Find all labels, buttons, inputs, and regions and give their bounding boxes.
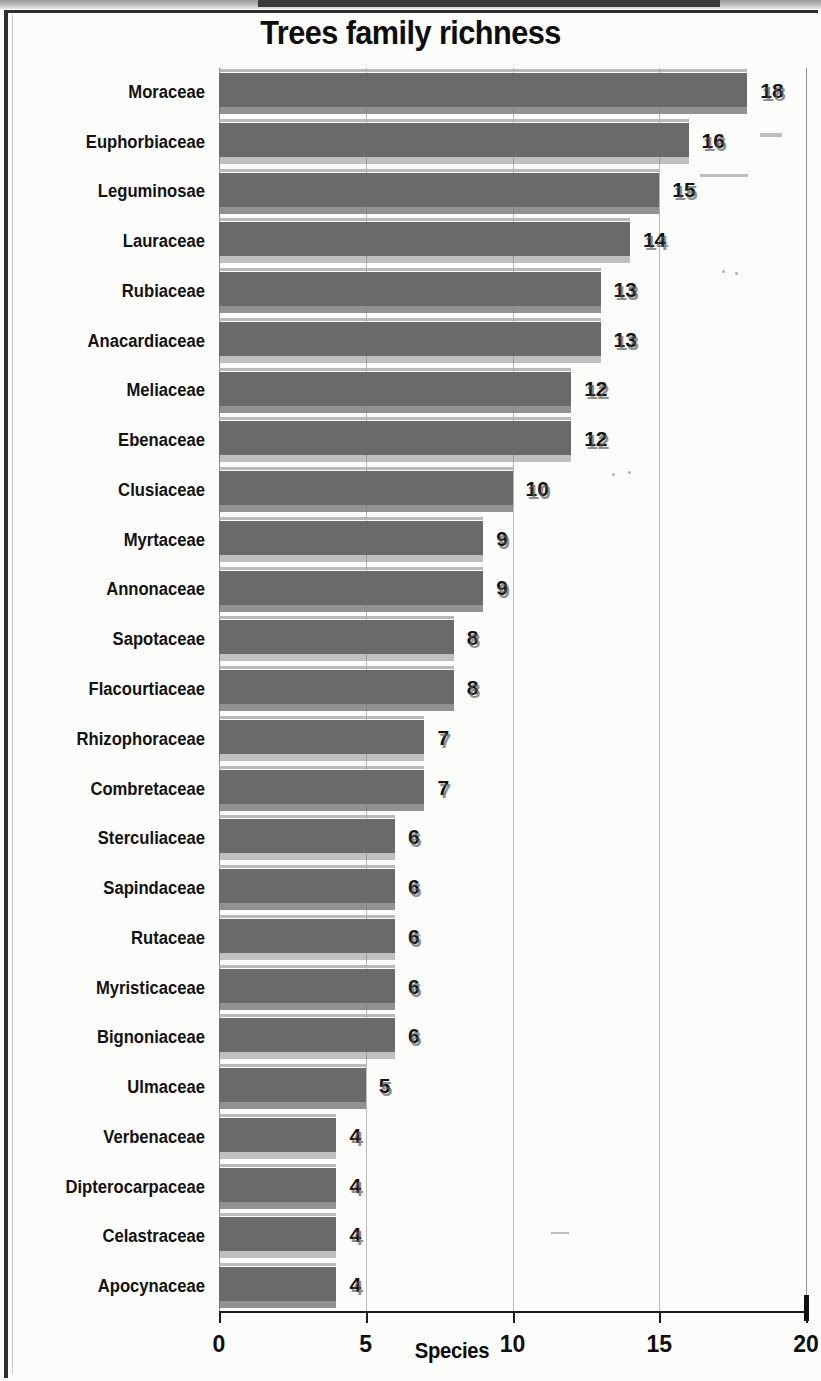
- scan-smudge: [700, 174, 748, 177]
- bar-row: [219, 964, 806, 1014]
- scan-speck: [722, 270, 725, 273]
- bar[interactable]: [219, 421, 571, 455]
- bar-value-label-ghost: 8: [469, 629, 481, 653]
- bar-value-label-ghost: 18: [762, 82, 785, 106]
- x-axis-tick-label: 10: [500, 1331, 526, 1358]
- category-label: Moraceae: [10, 82, 205, 103]
- category-label: Rhizophoraceae: [10, 729, 205, 750]
- bar-row: [219, 814, 806, 864]
- bar-scan-ghost: [219, 1014, 395, 1017]
- bar-scan-ghost: [219, 1263, 336, 1266]
- bar-scan-ghost: [219, 256, 630, 263]
- category-label: Sapindaceae: [10, 878, 205, 899]
- bar-row: [219, 1163, 806, 1213]
- category-label: Sterculiaceae: [10, 828, 205, 849]
- category-label: Myristicaceae: [10, 978, 205, 999]
- bar[interactable]: [219, 620, 454, 654]
- bar-scan-ghost: [219, 666, 454, 669]
- bar-value-label-ghost: 10: [528, 480, 551, 504]
- bar-scan-ghost: [219, 406, 571, 413]
- bar-scan-ghost: [219, 1003, 395, 1010]
- bar-scan-ghost: [219, 69, 747, 72]
- bar-scan-ghost: [219, 965, 395, 968]
- bar-scan-ghost: [219, 815, 395, 818]
- bar[interactable]: [219, 869, 395, 903]
- bar[interactable]: [219, 73, 747, 107]
- bar-scan-ghost: [219, 654, 454, 661]
- bar-scan-ghost: [219, 915, 395, 918]
- x-axis-title: Species: [415, 1338, 490, 1364]
- x-axis-tick-label: 5: [359, 1331, 372, 1358]
- bar-value-label-ghost: 6: [410, 878, 422, 902]
- bar[interactable]: [219, 372, 571, 406]
- bar-row: [219, 1113, 806, 1163]
- bar-row: [219, 1013, 806, 1063]
- bar[interactable]: [219, 322, 601, 356]
- x-axis-tick-label: 20: [793, 1331, 819, 1358]
- bar-scan-ghost: [219, 853, 395, 860]
- bar[interactable]: [219, 272, 601, 306]
- bar-row: [219, 864, 806, 914]
- bar-scan-ghost: [219, 417, 571, 420]
- category-label: Combretaceae: [10, 779, 205, 800]
- bar-value-label-ghost: 16: [704, 132, 727, 156]
- bar-scan-ghost: [219, 1114, 336, 1117]
- category-label: Meliaceae: [10, 380, 205, 401]
- bar-row: [219, 416, 806, 466]
- bar-scan-ghost: [219, 1202, 336, 1209]
- category-label: Flacourtiaceae: [10, 679, 205, 700]
- category-label: Verbenaceae: [10, 1127, 205, 1148]
- bar[interactable]: [219, 222, 630, 256]
- bar-row: [219, 615, 806, 665]
- bar-scan-ghost: [219, 157, 689, 164]
- bar[interactable]: [219, 969, 395, 1003]
- bar-scan-ghost: [219, 754, 424, 761]
- bar[interactable]: [219, 173, 659, 207]
- bar[interactable]: [219, 1267, 336, 1301]
- bar[interactable]: [219, 720, 424, 754]
- bar[interactable]: [219, 471, 513, 505]
- bar-value-label-ghost: 6: [410, 828, 422, 852]
- bar-scan-ghost: [219, 1152, 336, 1159]
- bar[interactable]: [219, 670, 454, 704]
- bar[interactable]: [219, 571, 483, 605]
- bar-scan-ghost: [219, 1251, 336, 1258]
- bar-value-label-ghost: 15: [674, 181, 697, 205]
- bar-row: [219, 566, 806, 616]
- bar[interactable]: [219, 819, 395, 853]
- x-axis-tick: [219, 1312, 221, 1323]
- bar-scan-ghost: [219, 356, 601, 363]
- bar-scan-ghost: [219, 1301, 336, 1308]
- bar-scan-ghost: [219, 716, 424, 719]
- x-axis-tick: [659, 1312, 661, 1323]
- x-axis-tick-label: 0: [213, 1331, 226, 1358]
- bar-value-label-ghost: 13: [616, 331, 639, 355]
- bar[interactable]: [219, 1118, 336, 1152]
- bar-scan-ghost: [219, 1052, 395, 1059]
- bar-scan-ghost: [219, 865, 395, 868]
- bar[interactable]: [219, 1068, 366, 1102]
- x-axis-tick: [513, 1312, 515, 1323]
- category-label: Rutaceae: [10, 928, 205, 949]
- bar-value-label-ghost: 4: [351, 1226, 363, 1250]
- bar[interactable]: [219, 1217, 336, 1251]
- bar-row: [219, 715, 806, 765]
- bar-scan-ghost: [219, 306, 601, 313]
- bar-value-label-ghost: 14: [645, 231, 668, 255]
- bar-row: [219, 317, 806, 367]
- bar-row: [219, 367, 806, 417]
- category-label: Anacardiaceae: [10, 331, 205, 352]
- bar[interactable]: [219, 521, 483, 555]
- bar-value-label-ghost: 6: [410, 928, 422, 952]
- bar[interactable]: [219, 1018, 395, 1052]
- bar-scan-ghost: [219, 368, 571, 371]
- bar-scan-ghost: [219, 555, 483, 562]
- bar-row: [219, 466, 806, 516]
- bar-scan-ghost: [219, 1164, 336, 1167]
- bar[interactable]: [219, 1168, 336, 1202]
- bar[interactable]: [219, 919, 395, 953]
- bar[interactable]: [219, 770, 424, 804]
- bar[interactable]: [219, 123, 689, 157]
- bar-value-label-ghost: 4: [351, 1276, 363, 1300]
- bar-scan-ghost: [219, 804, 424, 811]
